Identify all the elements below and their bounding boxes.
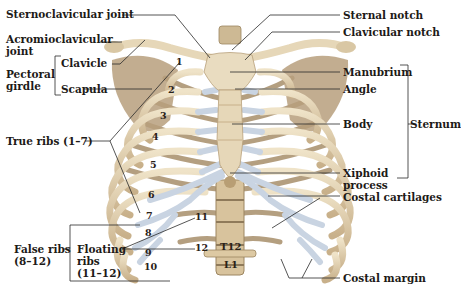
- rib-number-6: 6: [148, 190, 155, 200]
- label-floating-ribs-line3: (11–12): [77, 267, 121, 279]
- rib-number-3: 3: [160, 111, 167, 121]
- sternum-body: [217, 90, 243, 178]
- label-sternal-notch: Sternal notch: [343, 9, 423, 21]
- label-pectoral-girdle-line2: girdle: [6, 80, 41, 92]
- label-costal-cartilages: Costal cartilages: [343, 191, 442, 203]
- label-clavicle: Clavicle: [61, 57, 107, 69]
- rib-number-9: 9: [145, 248, 152, 258]
- label-clavicular-notch: Clavicular notch: [343, 26, 440, 38]
- label-pectoral-girdle-line1: Pectoral: [6, 68, 55, 80]
- label-sternoclavicular-joint: Sternoclavicular joint: [6, 8, 134, 20]
- label-body: Body: [343, 118, 372, 130]
- rib-number-11: 11: [195, 212, 208, 222]
- xiphoid: [224, 176, 236, 188]
- rib-number-8: 8: [145, 228, 152, 238]
- rib-number-7: 7: [146, 211, 153, 221]
- manubrium: [204, 53, 256, 91]
- vertebra-label-t12: T12: [220, 242, 241, 252]
- label-acromioclavicular-joint-line1: Acromioclavicular: [6, 33, 113, 45]
- label-scapula: Scapula: [61, 83, 108, 95]
- clavicle-left: [112, 43, 212, 58]
- label-floating-ribs-line1: Floating: [77, 243, 126, 255]
- label-sternum: Sternum: [410, 118, 461, 130]
- label-costal-margin: Costal margin: [343, 272, 426, 284]
- label-false-ribs-line2: (8–12): [14, 255, 51, 267]
- rib-number-12: 12: [195, 243, 208, 253]
- label-floating-ribs-line2: ribs: [77, 255, 100, 267]
- label-manubrium: Manubrium: [343, 66, 412, 78]
- label-xiphoid-process-line2: process: [343, 179, 388, 191]
- label-angle: Angle: [343, 83, 377, 95]
- clavicle-right: [248, 43, 348, 58]
- label-false-ribs-line1: False ribs: [14, 243, 71, 255]
- label-true-ribs: True ribs (1–7): [6, 135, 93, 147]
- vertebra-label-l1: L1: [224, 260, 238, 270]
- rib-number-2: 2: [168, 85, 175, 95]
- label-xiphoid-process-line1: Xiphoid: [343, 167, 388, 179]
- rib-number-5: 5: [150, 160, 157, 170]
- rib-number-1: 1: [176, 57, 183, 67]
- rib-number-10: 10: [144, 262, 157, 272]
- rib-number-4: 4: [152, 132, 159, 142]
- label-acromioclavicular-joint-line2: joint: [6, 45, 33, 57]
